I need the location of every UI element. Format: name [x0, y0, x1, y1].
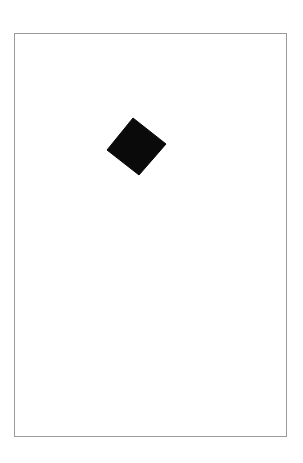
frame-border-rect: [15, 34, 287, 437]
figure-canvas: Black rotated square inside a rectangula…: [0, 0, 303, 463]
figure-illustration: [0, 0, 303, 463]
